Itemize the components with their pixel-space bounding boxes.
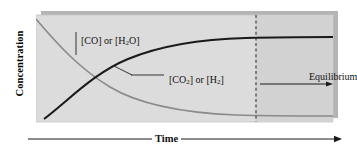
reactant-series-label: [CO] or [H2O]: [81, 36, 140, 47]
plot-svg: [36, 11, 344, 123]
x-axis-label: Time: [152, 133, 181, 144]
equilibrium-label: Equilibrium: [309, 72, 357, 82]
product-series-label: [CO2] or [H2]: [169, 75, 224, 86]
y-axis-label: Concentration: [14, 9, 25, 119]
product-sub-2: 2: [217, 78, 221, 86]
x-axis-arrowhead: [334, 136, 342, 142]
plot-area: [CO] or [H2O] [CO2] or [H2] Equilibrium: [36, 11, 344, 123]
product-sub-1: 2: [186, 78, 190, 86]
equilibrium-region: [256, 15, 333, 122]
reactant-sub: 2: [125, 39, 129, 47]
